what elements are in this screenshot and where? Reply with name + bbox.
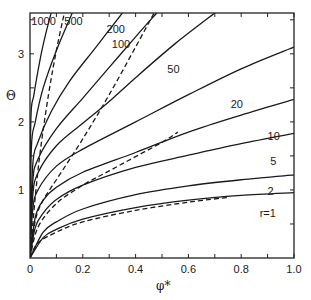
x-tick-label: 1.0 xyxy=(286,263,301,275)
curve-label: 5 xyxy=(270,155,276,167)
x-tick-label: 0.2 xyxy=(75,263,90,275)
axis-ticks xyxy=(30,13,294,258)
x-axis-label: φ* xyxy=(156,279,170,293)
series-20 xyxy=(30,47,294,258)
curve-label: 500 xyxy=(64,15,82,27)
curve-labels: 100050020010050201052r=1 xyxy=(31,15,280,219)
series-5 xyxy=(30,133,294,258)
curve-label: 1000 xyxy=(31,15,55,27)
line-chart: 00.20.40.60.81.0123 10005002001005020105… xyxy=(0,0,311,300)
curve-label: 10 xyxy=(268,130,280,142)
x-tick-label: 0 xyxy=(27,263,33,275)
y-axis-label: Θ xyxy=(6,89,16,103)
y-tick-label: 1 xyxy=(18,184,24,196)
y-tick-label: 2 xyxy=(18,116,24,128)
series-dashed-b xyxy=(30,13,154,258)
series-2 xyxy=(30,175,294,258)
x-tick-label: 0.8 xyxy=(234,263,249,275)
curve-label: r=1 xyxy=(260,207,276,219)
curve-label: 100 xyxy=(112,38,130,50)
curve-label: 2 xyxy=(268,185,274,197)
curve-label: 20 xyxy=(231,98,243,110)
plot-frame xyxy=(30,13,294,258)
series-r-1 xyxy=(30,193,294,258)
curve-label: 200 xyxy=(107,23,125,35)
curve-label: 50 xyxy=(167,63,179,75)
y-tick-label: 3 xyxy=(18,48,24,60)
x-tick-label: 0.6 xyxy=(181,263,196,275)
plot-area xyxy=(30,13,294,258)
x-tick-label: 0.4 xyxy=(128,263,143,275)
